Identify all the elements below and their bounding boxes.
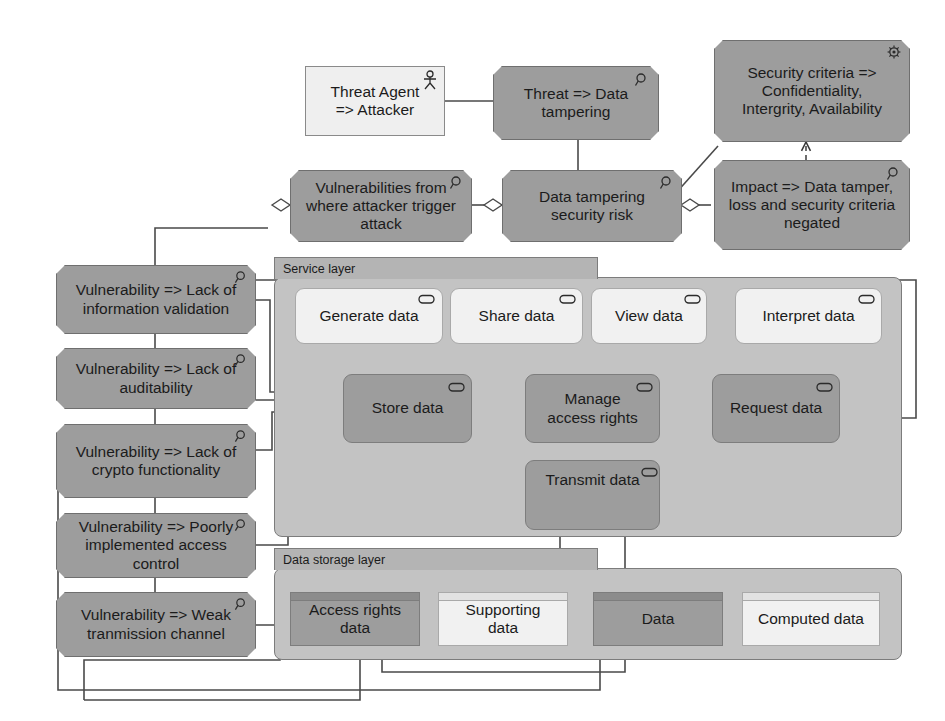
node-vulnerability-1[interactable]: Vulnerability => Lack of auditability [56,348,256,409]
node-vulnerability-0[interactable]: Vulnerability => Lack of information val… [56,265,256,334]
node-vulnerability-2[interactable]: Vulnerability => Lack of crypto function… [56,424,256,498]
node-data-data[interactable]: Data [593,592,723,646]
node-impact-label: Impact => Data tamper, loss and security… [714,178,910,233]
node-service-view-data-label: View data [601,307,697,325]
node-service-interpret-data[interactable]: Interpret data [735,288,882,344]
node-service-generate-data[interactable]: Generate data [295,288,443,344]
node-service-request-data[interactable]: Request data [712,374,840,443]
node-vulnerability-2-label: Vulnerability => Lack of crypto function… [56,443,256,480]
node-security-criteria[interactable]: Security criteria => Confidentiality, In… [714,40,910,142]
node-vulnerability-3[interactable]: Vulnerability => Poorly implemented acce… [56,513,256,578]
node-service-transmit-data-label: Transmit data [531,471,653,489]
node-service-generate-data-label: Generate data [305,307,432,325]
node-service-view-data[interactable]: View data [591,288,707,344]
node-service-manage-access-rights-label: Manage access rights [526,390,659,427]
aggregation-diamond [272,199,290,211]
node-service-transmit-data[interactable]: Transmit data [525,460,660,530]
aggregation-diamond [484,199,502,211]
node-threat-agent-label: Threat Agent => Attacker [306,83,444,120]
node-service-share-data[interactable]: Share data [450,288,583,344]
node-data-computed-data[interactable]: Computed data [742,592,880,646]
node-data-access-rights-data-label: Access rights data [291,601,419,638]
diagram-canvas: Service layer Data storage layer Threat … [0,0,945,721]
node-security-risk[interactable]: Data tampering security risk [502,170,682,242]
node-vulnerability-1-label: Vulnerability => Lack of auditability [56,360,256,397]
node-vulnerability-0-label: Vulnerability => Lack of information val… [56,281,256,318]
node-vulnerability-3-label: Vulnerability => Poorly implemented acce… [56,518,256,573]
data-storage-layer-title: Data storage layer [274,548,598,570]
node-vulnerabilities-source-label: Vulnerabilities from where attacker trig… [290,179,472,234]
node-vulnerability-4[interactable]: Vulnerability => Weak tranmission channe… [56,592,256,657]
node-security-risk-label: Data tampering security risk [502,188,682,225]
node-vulnerability-4-label: Vulnerability => Weak tranmission channe… [56,606,256,643]
node-security-criteria-label: Security criteria => Confidentiality, In… [714,64,910,119]
node-service-manage-access-rights[interactable]: Manage access rights [525,374,660,443]
node-data-data-label: Data [628,610,689,628]
node-threat-agent[interactable]: Threat Agent => Attacker [305,66,445,136]
aggregation-diamond [681,199,699,211]
node-data-supporting-data-label: Supporting data [439,601,567,638]
node-data-supporting-data[interactable]: Supporting data [438,592,568,646]
node-threat[interactable]: Threat => Data tampering [493,66,659,140]
node-impact[interactable]: Impact => Data tamper, loss and security… [714,160,910,250]
node-threat-label: Threat => Data tampering [493,85,659,122]
node-vulnerabilities-source[interactable]: Vulnerabilities from where attacker trig… [290,170,472,242]
node-service-interpret-data-label: Interpret data [748,307,868,325]
service-layer-title: Service layer [274,257,598,279]
node-service-request-data-label: Request data [716,399,836,417]
node-service-store-data-label: Store data [358,399,458,417]
node-service-share-data-label: Share data [465,307,569,325]
node-data-computed-data-label: Computed data [744,610,878,628]
node-service-store-data[interactable]: Store data [343,374,472,443]
node-data-access-rights-data[interactable]: Access rights data [290,592,420,646]
